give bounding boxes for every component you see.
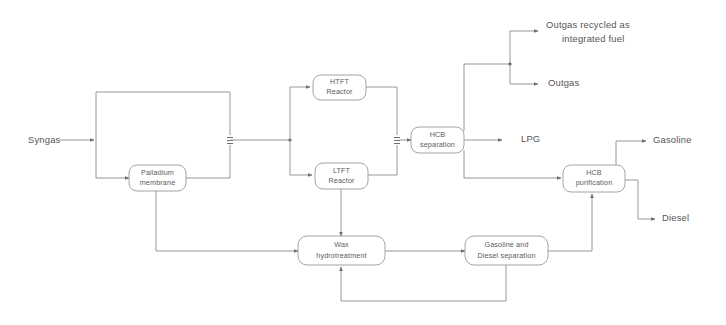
edge-gds-recycle-to-wax [341,265,506,301]
stream-label-outgas-recycled-line1: Outgas recycled as [546,19,630,30]
node-ltft-reactor[interactable]: LTFT Reactor [315,163,368,189]
node-palladium-membrane[interactable]: Palladium membrane [129,165,186,191]
node-palladium-membrane-label-1: Palladium [141,168,174,177]
stream-label-diesel: Diesel [662,212,689,223]
node-wax-hydrotreatment-label-1: Wax [334,240,349,249]
edge-palladium-to-riser [186,145,230,178]
node-hcb-separation-label-2: separation [420,140,455,149]
node-hcb-purification-label-1: HCB [586,168,602,177]
node-gasoline-diesel-separation[interactable]: Gasoline and Diesel separation [465,236,548,265]
stream-label-outgas: Outgas [548,77,580,88]
edge-hcb-separation-to-outgas-riser [464,31,512,131]
junction-mark-left [227,138,233,144]
node-htft-reactor-label-1: HTFT [330,77,349,86]
stream-label-syngas: Syngas [28,134,61,145]
edge-hcb-separation-to-hcb-purification [464,150,561,178]
edge-splitter-to-ltft [290,140,312,175]
node-hcb-purification[interactable]: HCB purification [563,165,625,192]
node-wax-hydrotreatment[interactable]: Wax hydrotreatment [298,236,385,265]
node-gasoline-diesel-separation-label-1: Gasoline and [484,240,528,249]
node-hcb-separation[interactable]: HCB separation [411,127,464,153]
junction-mark-hcb [394,138,400,144]
node-hcb-separation-label-1: HCB [430,130,446,139]
node-htft-reactor-label-2: Reactor [326,87,353,96]
node-hcb-purification-label-2: purification [576,178,613,187]
edge-outgas-branch [510,64,538,84]
node-ltft-reactor-label-2: Reactor [328,176,355,185]
node-htft-reactor[interactable]: HTFT Reactor [313,75,366,100]
stream-label-outgas-recycled-line2: integrated fuel [562,33,624,44]
flow-diagram-canvas: Palladium membrane HTFT Reactor LTFT Rea… [0,0,726,325]
stream-label-lpg: LPG [521,133,540,144]
node-wax-hydrotreatment-label-2: hydrotreatment [316,251,366,260]
edge-hcb-purification-to-gasoline [616,141,646,165]
node-ltft-reactor-label-1: LTFT [333,166,351,175]
edge-htft-to-hcb-separation [366,87,397,135]
process-flow-diagram: Palladium membrane HTFT Reactor LTFT Rea… [0,0,726,325]
edge-gds-to-hcb-purification [548,194,592,251]
edge-ltft-to-hcb-separation [368,145,397,175]
stream-label-gasoline: Gasoline [653,134,692,145]
edge-palladium-to-wax-hydrotreatment [156,191,298,251]
edge-main-to-reactor-splitter [231,138,292,141]
edge-splitter-to-htft [290,87,310,140]
node-gasoline-diesel-separation-label-2: Diesel separation [477,251,535,260]
node-palladium-membrane-label-2: membrane [140,178,176,187]
edge-hcb-purification-to-diesel [625,180,655,219]
